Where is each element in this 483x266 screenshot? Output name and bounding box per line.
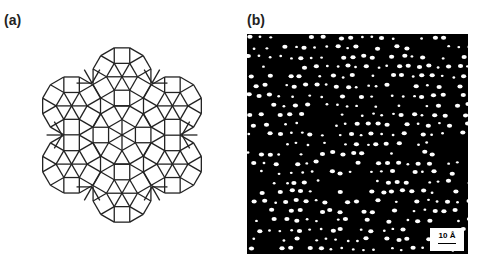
scale-bar <box>438 243 456 244</box>
scale-bar-label: 10 Å <box>430 231 464 240</box>
micrograph: 10 Å <box>247 34 468 254</box>
scale-bar-box: 10 Å <box>430 228 464 251</box>
dodecagonal-tiling <box>0 0 245 266</box>
panel-b-label: (b) <box>247 12 265 28</box>
